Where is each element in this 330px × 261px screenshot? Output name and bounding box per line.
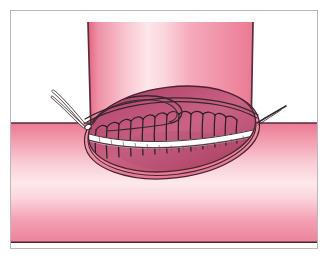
suture-tail-right-group	[257, 106, 286, 125]
suture-stitch	[130, 121, 131, 156]
suture-tail-right	[257, 106, 286, 123]
surgical-illustration	[11, 11, 317, 248]
figure-root	[0, 0, 330, 261]
suture-knot	[89, 127, 91, 129]
figure-frame	[10, 10, 318, 249]
